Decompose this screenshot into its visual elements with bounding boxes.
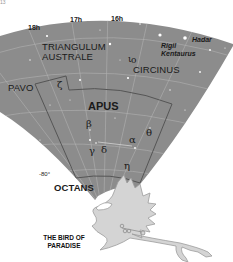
star-rigil: Rigil (161, 42, 176, 49)
hour-label-17h: 17h (70, 16, 82, 23)
label-australe: AUSTRALE (42, 52, 93, 62)
label-circinus: CIRCINUS (133, 65, 180, 75)
label-pavo: PAVO (8, 83, 33, 93)
greek-eta: η (124, 161, 130, 171)
page-number: 13 (0, 0, 6, 5)
greek-gamma: γ (89, 146, 95, 156)
greek-alpha: α (129, 135, 136, 145)
greek-zeta: ζ (57, 80, 62, 90)
label-octans: OCTANS (54, 183, 94, 193)
greek-theta: θ (146, 128, 152, 138)
star-hadar: Hadar (192, 36, 212, 43)
apus-star-chart: 13 18h 17h 16h TRIANGULUM AUSTRALE Rigil… (0, 0, 233, 262)
label-apus: APUS (88, 101, 119, 112)
caption-line-1: THE BIRD OF (38, 234, 90, 242)
star-kentaurus: Kentaurus (161, 50, 196, 57)
declination-label: -80° (39, 171, 50, 177)
hour-label-18h: 18h (28, 24, 40, 31)
caption-line-2: PARADISE (38, 242, 90, 250)
greek-delta: δ (101, 145, 107, 155)
hour-label-16h: 16h (111, 15, 123, 22)
caption: THE BIRD OF PARADISE (38, 234, 90, 250)
greek-beta: β (86, 119, 92, 129)
